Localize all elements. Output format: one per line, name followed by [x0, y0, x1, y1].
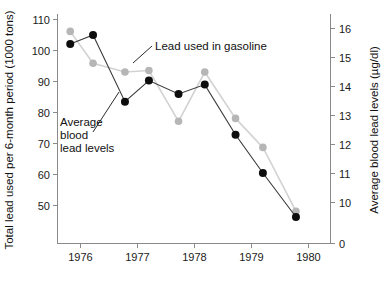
left-axis-tick-labels: 110 100 90 80 70 60 50: [32, 14, 50, 212]
right-tick-label-10: 10: [339, 197, 351, 209]
x-axis-tick-labels: 1976 1977 1978 1979 1980: [68, 251, 320, 263]
right-tick-label-16: 16: [339, 23, 351, 35]
data-point: [232, 131, 240, 139]
left-tick-label-60: 60: [38, 169, 50, 181]
series-line-lead-used-in-gasoline: [70, 35, 296, 217]
data-point: [66, 40, 74, 48]
gasoline-annotation-label: Lead used in gasoline: [155, 40, 267, 52]
blood-annotation-line-2: blood: [60, 129, 88, 141]
right-tick-label-13: 13: [339, 110, 351, 122]
data-point: [66, 28, 74, 36]
left-tick-label-110: 110: [32, 14, 50, 26]
right-axis-ticks: [331, 29, 336, 244]
blood-annotation-line-3: lead levels: [60, 142, 115, 154]
left-tick-label-90: 90: [38, 76, 50, 88]
data-point: [232, 115, 240, 123]
left-tick-label-100: 100: [32, 45, 50, 57]
data-point: [89, 31, 97, 39]
data-point: [201, 81, 209, 89]
gasoline-annotation-leader: [133, 46, 152, 63]
blood-annotation-line-1: Average: [60, 116, 103, 128]
y-axis-title: Total lead used per 6-month period (1000…: [3, 10, 15, 249]
data-point: [201, 68, 209, 76]
right-tick-label-14: 14: [339, 81, 351, 93]
right-axis-tick-labels: 16 15 14 13 12 11 10 0: [339, 23, 351, 250]
data-point: [145, 67, 153, 75]
data-point: [175, 118, 183, 126]
data-point: [89, 60, 97, 68]
data-point: [259, 169, 267, 177]
x-tick-label-1977: 1977: [125, 251, 149, 263]
blood-annotation-label: Average blood lead levels: [60, 116, 115, 154]
chart-container: 110 100 90 80 70 60 50 16 15 14 13 12 11: [0, 0, 388, 281]
left-tick-label-80: 80: [38, 107, 50, 119]
x-tick-label-1978: 1978: [182, 251, 206, 263]
x-tick-label-1976: 1976: [68, 251, 92, 263]
right-tick-label-12: 12: [339, 139, 351, 151]
left-axis-ticks: [53, 20, 58, 206]
data-point: [292, 213, 300, 221]
right-tick-label-0: 0: [339, 238, 345, 250]
right-tick-label-15: 15: [339, 52, 351, 64]
right-tick-label-11: 11: [339, 168, 350, 180]
x-tick-label-1979: 1979: [239, 251, 263, 263]
data-point: [121, 98, 129, 106]
left-tick-label-70: 70: [38, 138, 50, 150]
x-axis-ticks: [81, 244, 309, 249]
data-point: [175, 90, 183, 98]
lead-levels-line-chart: 110 100 90 80 70 60 50 16 15 14 13 12 11: [0, 0, 388, 281]
left-tick-label-50: 50: [38, 200, 50, 212]
data-point: [145, 77, 153, 85]
y2-axis-title: Average blood lead levels (µg/dl): [368, 46, 380, 214]
data-point: [121, 68, 129, 76]
x-tick-label-1980: 1980: [296, 251, 320, 263]
data-point: [259, 144, 267, 152]
